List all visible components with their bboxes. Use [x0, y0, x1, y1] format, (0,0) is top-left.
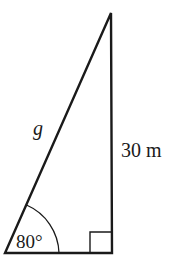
right-angle-marker	[90, 232, 112, 253]
right-triangle	[5, 13, 112, 253]
angle-label: 80°	[16, 231, 43, 252]
vertical-side-label: 30 m	[121, 139, 162, 161]
triangle-diagram: g 30 m 80°	[0, 0, 178, 264]
hypotenuse-label: g	[33, 117, 43, 140]
